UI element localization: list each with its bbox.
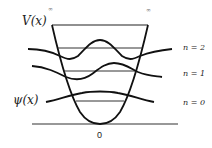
level-label-n2: n = 2 [183,44,205,52]
level-label-n1: n = 1 [183,70,205,78]
wavefunction-n0 [46,92,154,103]
level-label-n0: n = 0 [183,99,205,107]
infinity-right-label: ∞ [146,7,151,13]
wavefunction-label: ψ(x) [13,94,39,106]
diagram-canvas: V(x) ψ(x) ∞ ∞ n = 2 n = 1 n = 0 0 [0,0,212,148]
infinity-left-label: ∞ [48,6,53,12]
wavefunction-n1 [32,63,162,79]
origin-label: 0 [97,131,102,140]
potential-label: V(x) [22,15,47,27]
wavefunction-n2 [28,40,172,59]
